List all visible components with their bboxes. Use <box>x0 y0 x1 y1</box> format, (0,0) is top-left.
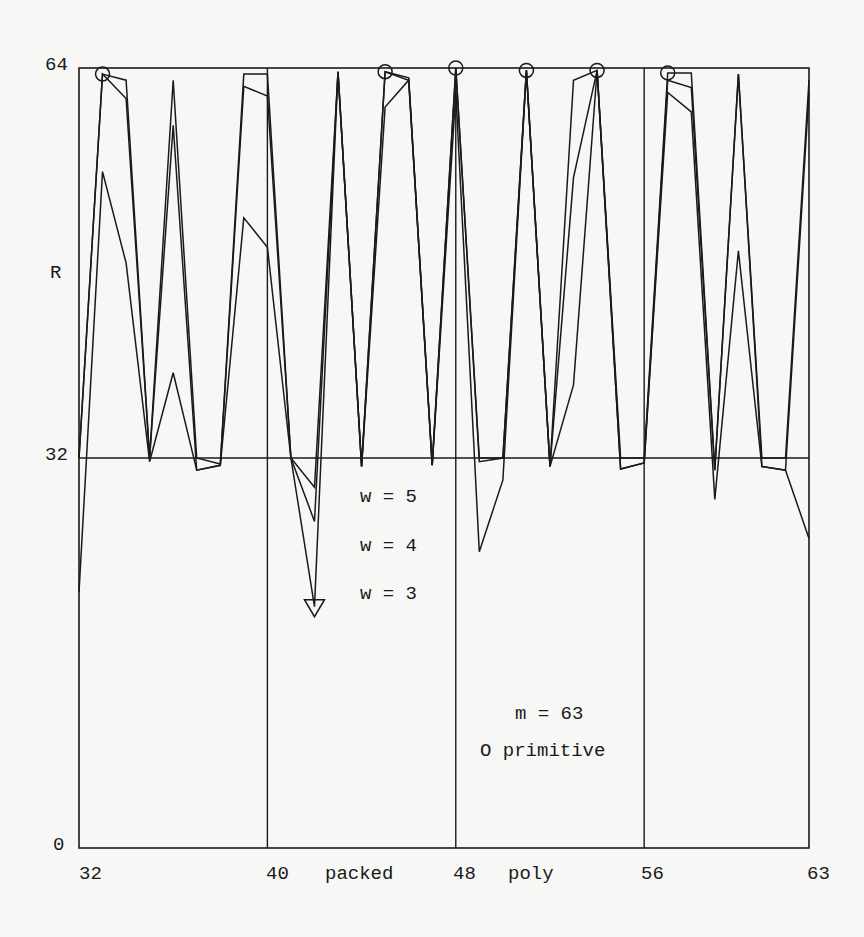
x-label-packed: packed <box>325 865 393 884</box>
x-tick-32: 32 <box>79 865 102 884</box>
y-tick-32: 32 <box>45 446 68 465</box>
plot-frame <box>79 68 809 848</box>
legend-w3: w = 3 <box>360 585 417 604</box>
chart-plot-area <box>0 0 864 937</box>
legend-w5: w = 5 <box>360 488 417 507</box>
x-tick-63: 63 <box>807 865 830 884</box>
markers <box>96 61 675 617</box>
x-tick-56: 56 <box>641 865 664 884</box>
y-tick-0: 0 <box>53 836 64 855</box>
series-w3 <box>79 70 809 606</box>
annotation-m: m = 63 <box>515 705 583 724</box>
series-lines <box>79 68 809 607</box>
y-axis-title: R <box>50 264 61 283</box>
legend-w4: w = 4 <box>360 537 417 556</box>
x-label-poly: poly <box>508 865 554 884</box>
x-tick-40: 40 <box>266 865 289 884</box>
annotation-primitive: O primitive <box>480 742 605 761</box>
series-w4 <box>79 68 809 521</box>
x-tick-48: 48 <box>453 865 476 884</box>
y-tick-64: 64 <box>45 56 68 75</box>
